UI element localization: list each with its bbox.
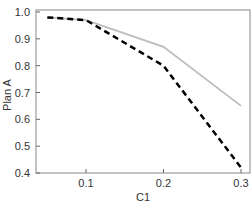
data-lines: [47, 17, 241, 167]
y-tick-label: 0.6: [15, 113, 30, 125]
x-axis-label: C1: [136, 191, 150, 203]
plot-frame: [36, 10, 250, 173]
axes: 0.40.50.60.70.80.91.00.10.20.3: [15, 6, 250, 189]
line-chart: 0.40.50.60.70.80.91.00.10.20.3 C1 Plan A: [0, 0, 252, 205]
y-tick-label: 0.9: [15, 33, 30, 45]
y-tick-label: 1.0: [15, 6, 30, 18]
y-tick-label: 0.7: [15, 87, 30, 99]
series-line-solid-gray: [47, 17, 241, 106]
y-axis-label: Plan A: [1, 78, 13, 110]
x-tick-label: 0.2: [156, 177, 171, 189]
y-tick-label: 0.5: [15, 140, 30, 152]
x-tick-label: 0.1: [78, 177, 93, 189]
x-tick-label: 0.3: [233, 177, 248, 189]
y-tick-label: 0.8: [15, 60, 30, 72]
y-tick-label: 0.4: [15, 167, 30, 179]
